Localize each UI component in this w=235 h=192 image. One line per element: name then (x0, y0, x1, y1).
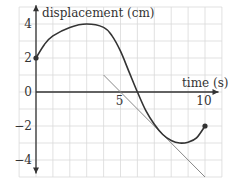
endpoint-dot (33, 55, 38, 60)
y-tick-label: 0 (24, 85, 32, 99)
x-axis-label: time (s) (182, 76, 228, 90)
y-tick-label: 4 (24, 17, 32, 31)
y-tick-label: −4 (14, 153, 32, 167)
displacement-time-chart: 420−2−4510 displacement (cm) time (s) (0, 0, 235, 192)
x-tick-label: 5 (116, 94, 124, 108)
y-tick-label: −2 (14, 119, 32, 133)
y-axis-arrow-down-icon (33, 168, 39, 174)
y-axis-arrow-up-icon (33, 5, 39, 11)
x-tick-label: 10 (196, 94, 211, 108)
endpoint-dot (202, 123, 207, 128)
y-axis-label: displacement (cm) (42, 6, 154, 20)
y-tick-label: 2 (24, 51, 32, 65)
